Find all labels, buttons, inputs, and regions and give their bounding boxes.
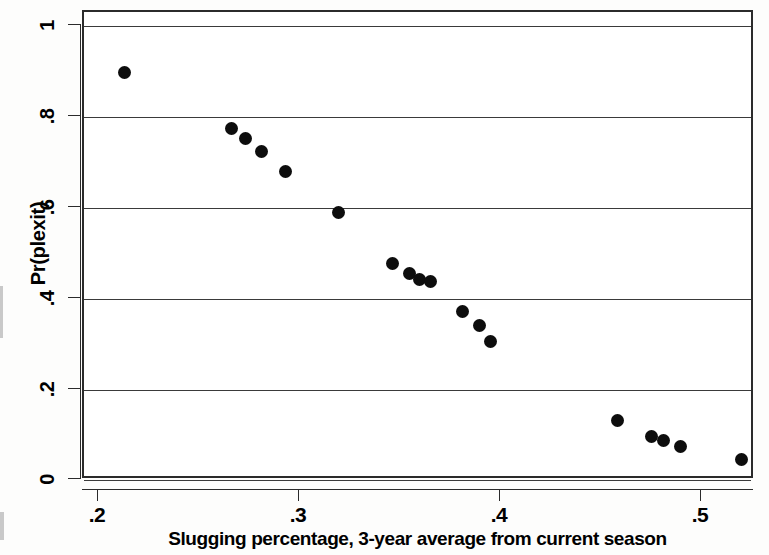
x-tick-label: .3 — [273, 503, 323, 527]
scan-artifact — [0, 512, 4, 540]
y-tick-mark — [68, 24, 81, 25]
y-tick-label: .2 — [36, 370, 59, 410]
data-point — [279, 165, 292, 178]
y-tick-mark — [68, 478, 81, 479]
y-tick-label: .8 — [36, 97, 59, 137]
y-tick-label: 1 — [36, 6, 59, 46]
x-tick-mark — [499, 489, 500, 501]
data-point — [332, 206, 345, 219]
y-tick-label: .4 — [36, 279, 59, 319]
data-point — [118, 66, 131, 79]
x-tick-label: .4 — [474, 503, 524, 527]
data-point — [735, 453, 748, 466]
data-point — [611, 414, 624, 427]
x-tick-mark — [298, 489, 299, 501]
data-point — [657, 434, 670, 447]
x-axis-title: Slugging percentage, 3-year average from… — [82, 528, 753, 550]
gridline-y-08 — [84, 117, 751, 118]
data-point — [239, 132, 252, 145]
x-tick-mark — [700, 489, 701, 501]
gridline-y-06 — [84, 208, 751, 209]
plot-panel — [82, 10, 753, 478]
x-tick-label: .5 — [675, 503, 725, 527]
gridline-y-04 — [84, 299, 751, 300]
gridline-y-0 — [84, 480, 751, 481]
data-point — [225, 122, 238, 135]
data-point — [386, 257, 399, 270]
data-point — [473, 319, 486, 332]
data-point — [424, 275, 437, 288]
data-point — [484, 335, 497, 348]
data-point — [456, 305, 469, 318]
y-tick-label: 0 — [36, 460, 59, 500]
data-point — [645, 430, 658, 443]
y-tick-label: .6 — [36, 188, 59, 228]
gridline-y-02 — [84, 390, 751, 391]
x-tick-label: .2 — [72, 503, 122, 527]
data-point — [255, 145, 268, 158]
y-tick-mark — [68, 388, 81, 389]
y-tick-mark — [68, 115, 81, 116]
gridline-y-1 — [84, 26, 751, 27]
y-tick-mark — [68, 297, 81, 298]
data-point — [674, 440, 687, 453]
scan-artifact — [0, 286, 3, 338]
y-axis-title: Pr(plexit) — [27, 124, 50, 364]
y-tick-mark — [68, 206, 81, 207]
scatter-plot-figure: Pr(plexit) 1 .8 .6 .4 .2 0 — [0, 0, 769, 555]
y-axis-spine — [80, 24, 81, 478]
x-axis-spine — [82, 489, 753, 490]
x-tick-mark — [97, 489, 98, 501]
